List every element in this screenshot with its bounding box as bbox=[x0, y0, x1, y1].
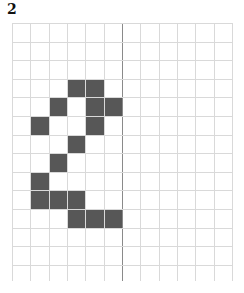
grid-hline bbox=[12, 23, 232, 24]
filled-cell bbox=[85, 79, 104, 98]
center-axis-line bbox=[122, 23, 123, 281]
filled-cell bbox=[49, 190, 68, 209]
grid-hline bbox=[12, 228, 232, 229]
grid-vline bbox=[232, 23, 233, 281]
grid-vline bbox=[195, 23, 196, 281]
filled-cell bbox=[49, 97, 68, 116]
filled-cell bbox=[30, 172, 49, 191]
grid-vline bbox=[85, 23, 86, 281]
filled-cell bbox=[67, 79, 86, 98]
filled-cell bbox=[67, 209, 86, 228]
filled-cell bbox=[85, 97, 104, 116]
grid-vline bbox=[67, 23, 68, 281]
grid-vline bbox=[49, 23, 50, 281]
filled-cell bbox=[85, 209, 104, 228]
filled-cell bbox=[85, 116, 104, 135]
filled-cell bbox=[67, 135, 86, 154]
filled-cell bbox=[67, 190, 86, 209]
filled-cell bbox=[104, 97, 123, 116]
grid-hline bbox=[12, 209, 232, 210]
grid-hline bbox=[12, 246, 232, 247]
filled-cell bbox=[49, 153, 68, 172]
grid-vline bbox=[140, 23, 141, 281]
grid-vline bbox=[104, 23, 105, 281]
grid-vline bbox=[159, 23, 160, 281]
figure-label: 2 bbox=[7, 1, 17, 17]
grid-hline bbox=[12, 190, 232, 191]
filled-cell bbox=[30, 116, 49, 135]
grid-vline bbox=[30, 23, 31, 281]
pixel-grid bbox=[12, 23, 232, 279]
grid-hline bbox=[12, 79, 232, 80]
grid-vline bbox=[177, 23, 178, 281]
filled-cell bbox=[104, 209, 123, 228]
grid-hline bbox=[12, 97, 232, 98]
grid-hline bbox=[12, 42, 232, 43]
grid-hline bbox=[12, 135, 232, 136]
grid-vline bbox=[214, 23, 215, 281]
grid-hline bbox=[12, 265, 232, 266]
filled-cell bbox=[30, 190, 49, 209]
grid-vline bbox=[12, 23, 13, 281]
grid-hline bbox=[12, 60, 232, 61]
grid-hline bbox=[12, 116, 232, 117]
grid-hline bbox=[12, 172, 232, 173]
grid-hline bbox=[12, 153, 232, 154]
